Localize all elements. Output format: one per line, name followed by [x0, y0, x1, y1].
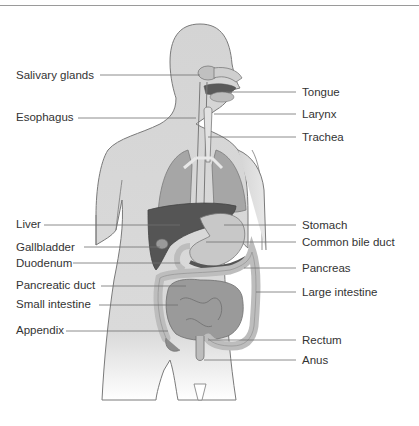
label-appendix: Appendix [16, 324, 64, 337]
label-duodenum: Duodenum [16, 257, 72, 270]
label-common-bile-duct: Common bile duct [302, 236, 395, 249]
label-stomach: Stomach [302, 219, 347, 232]
label-rectum: Rectum [302, 334, 342, 347]
label-esophagus: Esophagus [16, 111, 74, 124]
label-small-intestine: Small intestine [16, 298, 91, 311]
label-salivary-glands: Salivary glands [16, 69, 94, 82]
label-trachea: Trachea [302, 131, 344, 144]
label-large-intestine: Large intestine [302, 286, 377, 299]
label-liver: Liver [16, 218, 41, 231]
label-pancreatic-duct: Pancreatic duct [16, 279, 95, 292]
small-intestine-shape [166, 279, 243, 340]
label-pancreas: Pancreas [302, 262, 351, 275]
label-gallbladder: Gallbladder [16, 241, 75, 254]
label-tongue: Tongue [302, 86, 340, 99]
digestive-system-figure [0, 0, 419, 426]
label-anus: Anus [302, 354, 328, 367]
label-larynx: Larynx [302, 108, 337, 121]
